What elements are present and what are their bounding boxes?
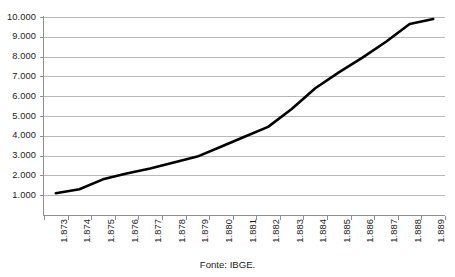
x-axis-tick-label: 1.873 bbox=[60, 219, 69, 243]
line-chart: 1.0002.0003.0004.0005.0006.0007.0008.000… bbox=[0, 0, 455, 277]
x-axis-tick-label: 1.878 bbox=[178, 219, 187, 243]
x-axis-tick-label: 1.889 bbox=[437, 219, 446, 243]
source-caption: Fonte: IBGE. bbox=[0, 259, 455, 270]
y-axis-tick-label: 4.000 bbox=[12, 131, 36, 140]
x-axis-tick-label: 1.879 bbox=[201, 219, 210, 243]
x-axis-labels: 1.8731.8741.8751.8761.8771.8781.8791.880… bbox=[44, 219, 455, 259]
x-axis-tick-label: 1.883 bbox=[296, 219, 305, 243]
x-axis-tick-label: 1.880 bbox=[225, 219, 234, 243]
x-axis-tick-label: 1.884 bbox=[319, 219, 328, 243]
x-axis-tick-label: 1.875 bbox=[107, 219, 116, 243]
x-axis-tick-label: 1.886 bbox=[366, 219, 375, 243]
x-axis-tick-label: 1.874 bbox=[83, 219, 92, 243]
y-axis-labels: 1.0002.0003.0004.0005.0006.0007.0008.000… bbox=[0, 0, 42, 277]
x-axis-tick-label: 1.877 bbox=[154, 219, 163, 243]
plot-area bbox=[44, 17, 445, 215]
x-axis-tick-label: 1.882 bbox=[272, 219, 281, 243]
y-axis-tick-label: 6.000 bbox=[12, 92, 36, 101]
y-axis-tick-label: 9.000 bbox=[12, 32, 36, 41]
y-axis-tick-label: 5.000 bbox=[12, 112, 36, 121]
y-axis-tick-label: 1.000 bbox=[12, 191, 36, 200]
x-axis-tick-label: 1.876 bbox=[131, 219, 140, 243]
x-axis-tick-label: 1.887 bbox=[390, 219, 399, 243]
x-axis-tick-label: 1.881 bbox=[249, 219, 258, 243]
x-axis-tick-label: 1.888 bbox=[414, 219, 423, 243]
y-axis-tick-label: 10.000 bbox=[7, 13, 36, 22]
x-axis-line bbox=[43, 215, 445, 216]
data-series-line bbox=[44, 17, 445, 215]
y-axis-tick-label: 8.000 bbox=[12, 52, 36, 61]
y-axis-tick-label: 2.000 bbox=[12, 171, 36, 180]
x-axis-tick-label: 1.885 bbox=[343, 219, 352, 243]
y-axis-tick-label: 3.000 bbox=[12, 151, 36, 160]
y-axis-tick-label: 7.000 bbox=[12, 72, 36, 81]
